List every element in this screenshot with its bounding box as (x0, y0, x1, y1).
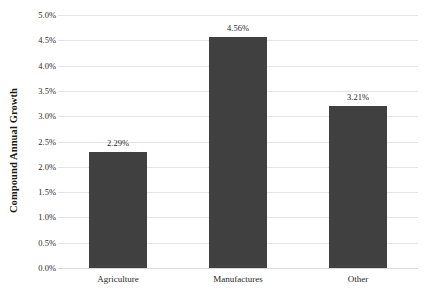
gridline (58, 268, 418, 269)
y-axis-tick-label: 2.0% (28, 163, 56, 172)
y-axis-tick-label: 0.0% (28, 264, 56, 273)
plot-area: 2.29%4.56%3.21% (58, 15, 418, 268)
bar[interactable] (89, 152, 147, 268)
bar-chart: Compound Annual Growth 0.0%0.5%1.0%1.5%2… (0, 0, 424, 301)
y-axis-tick-label: 3.0% (28, 112, 56, 121)
y-axis-title: Compound Annual Growth (0, 0, 26, 301)
y-axis-tick-labels: 0.0%0.5%1.0%1.5%2.0%2.5%3.0%3.5%4.0%4.5%… (28, 15, 56, 268)
x-axis-category-label: Other (298, 275, 418, 284)
y-axis-tick-label: 1.5% (28, 188, 56, 197)
y-axis-tick-label: 4.5% (28, 36, 56, 45)
y-axis-tick-label: 4.0% (28, 61, 56, 70)
bar[interactable] (329, 106, 387, 268)
x-axis-category-labels: AgricultureManufacturesOther (58, 273, 418, 289)
y-axis-tick-label: 1.0% (28, 213, 56, 222)
x-axis-category-label: Manufactures (178, 275, 298, 284)
y-axis-tick-label: 2.5% (28, 137, 56, 146)
x-axis-category-label: Agriculture (58, 275, 178, 284)
y-axis-tick-label: 3.5% (28, 87, 56, 96)
y-axis-tick-label: 0.5% (28, 238, 56, 247)
y-axis-tick-label: 5.0% (28, 11, 56, 20)
bar-value-label: 3.21% (318, 93, 398, 102)
bar[interactable] (209, 37, 267, 268)
bar-value-label: 4.56% (198, 24, 278, 33)
bar-value-label: 2.29% (78, 139, 158, 148)
bars-group: 2.29%4.56%3.21% (58, 15, 418, 268)
